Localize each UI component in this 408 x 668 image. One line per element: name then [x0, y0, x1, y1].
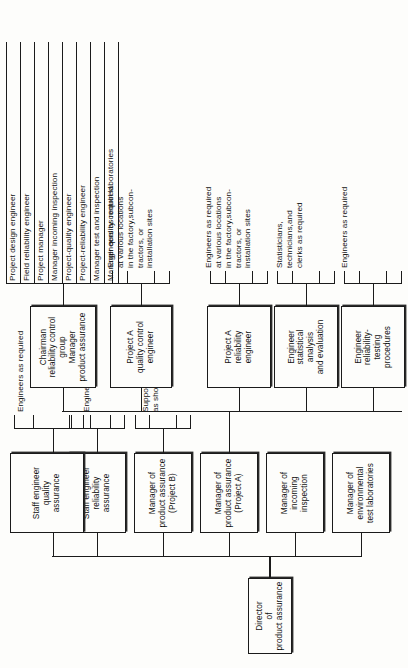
box-engineer-reliability-testing-procedures: Engineer reliability- testing procedures	[341, 306, 405, 388]
note-engineer-statistical: Statisticians, technicians,and clerks as…	[275, 138, 305, 268]
committee-member-3-label: Manager incoming inspection	[51, 173, 59, 281]
connector-pa-4-riser	[62, 411, 129, 412]
pa-0-brace-spine	[344, 283, 402, 284]
pa-1-brace-stub-2	[319, 271, 320, 284]
box-chairman-reliability-control-group-label: Chairman reliability control group Manag…	[39, 309, 87, 385]
brace-reliability-stub-3	[124, 415, 125, 429]
connector-level1-2	[229, 533, 230, 557]
pa-2-brace-spine	[210, 283, 268, 284]
pa-1-brace-stub-1	[292, 271, 293, 284]
committee-member-6: Manager test and inspection	[90, 42, 104, 284]
connector-level1-3	[163, 533, 164, 557]
connector-pa-2-brace	[239, 284, 240, 306]
box-product-assurance-project-a: Manager of product assurance (Project A)	[200, 453, 258, 533]
pa-3-brace-stub-1	[127, 271, 128, 284]
note-engineer-reliability-testing: Engineers as required	[340, 138, 350, 268]
connector-level1-bus	[52, 556, 362, 557]
box-staff-engineer-quality-assurance: Staff engineer quality assurance	[10, 453, 84, 533]
org-chart: Director of product assurance Manager of…	[0, 0, 408, 668]
box-product-assurance-project-b-label: Manager of product assurance (Project B)	[148, 458, 177, 527]
committee-member-2: Project manager	[34, 42, 48, 284]
committee-member-2-label: Project manager	[37, 220, 45, 281]
brace-quality-stub-1	[33, 415, 34, 429]
box-incoming-inspection: Manager of incoming inspection	[266, 453, 324, 533]
brace-reliability-stub-2	[110, 415, 111, 429]
connector-brace-project-b	[163, 429, 164, 453]
committee-member-3: Manager incoming inspection	[48, 42, 62, 284]
pa-2-brace-stub-1	[225, 271, 226, 284]
box-project-a-reliability-engineer: Project A reliability engineer	[207, 306, 271, 388]
box-product-assurance-project-a-label: Manager of product assurance (Project A)	[214, 458, 243, 527]
connector-pa-2	[239, 388, 240, 412]
committee-member-5: Project-reliability engineer	[76, 42, 90, 284]
pa-1-brace-stub-3	[334, 271, 335, 284]
brace-reliability-spine	[69, 428, 125, 429]
connector-committee	[63, 284, 64, 306]
pa-0-brace-stub-3	[401, 271, 402, 284]
connector-pa-1-brace	[306, 284, 307, 306]
committee-list-bottom-rule	[104, 42, 119, 284]
committee-member-0-label: Project design engineer	[9, 194, 17, 281]
pa-0-brace-stub-1	[359, 271, 360, 284]
pa-3-brace-stub-2	[154, 271, 155, 284]
box-incoming-inspection-label: Manager of incoming inspection	[280, 472, 309, 514]
connector-pa-3	[141, 388, 142, 412]
committee-member-4-label: Project-quality engineer	[65, 194, 73, 281]
pa-2-brace-stub-2	[252, 271, 253, 284]
committee-member-4: Project-quality engineer	[62, 42, 76, 284]
note-staff-quality: Engineers as required	[16, 292, 26, 412]
box-director: Director of product assurance	[248, 578, 292, 654]
connector-project-a-stem	[229, 411, 230, 453]
connector-level1-1	[295, 533, 296, 557]
brace-project-b-stub-2	[176, 415, 177, 429]
pa-1-brace-stub-0	[277, 271, 278, 284]
connector-pa-3-brace	[141, 284, 142, 306]
box-environmental-test-laboratories-label: Manager of environmental test laboratori…	[346, 463, 375, 523]
diagram-canvas: Director of product assurance Manager of…	[0, 0, 408, 668]
committee-member-6-label: Manager test and inspection	[93, 177, 101, 281]
connector-brace-reliability	[97, 429, 98, 453]
pa-2-brace-stub-3	[267, 271, 268, 284]
committee-member-1: Field reliability engineer	[20, 42, 34, 284]
box-engineer-reliability-testing-procedures-label: Engineer reliability- testing procedures	[354, 326, 393, 368]
connector-root-stem	[269, 556, 270, 578]
connector-level1-5	[53, 533, 54, 557]
connector-level1-0	[361, 533, 362, 557]
connector-project-a-bus	[128, 411, 402, 412]
brace-reliability-stub-1	[83, 415, 84, 429]
note-project-a-reliability: Engineers as required at various locatio…	[204, 118, 253, 268]
brace-project-b-stub-1	[149, 415, 150, 429]
box-chairman-reliability-control-group: Chairman reliability control group Manag…	[30, 306, 96, 388]
box-staff-engineer-reliability-assurance-label: Staff engineer reliability assurance	[82, 467, 111, 519]
box-environmental-test-laboratories: Manager of environmental test laboratori…	[332, 453, 390, 533]
pa-2-brace-stub-0	[210, 271, 211, 284]
brace-project-b-stub-3	[190, 415, 191, 429]
box-engineer-statistical-analysis-label: Engineer statistical analysis and evalua…	[287, 320, 326, 375]
box-staff-engineer-quality-assurance-label: Staff engineer quality assurance	[32, 467, 61, 519]
brace-project-b-spine	[135, 428, 191, 429]
committee-member-1-label: Field reliability engineer	[23, 193, 31, 281]
connector-pa-1	[306, 388, 307, 412]
box-engineer-statistical-analysis: Engineer statistical analysis and evalua…	[274, 306, 338, 388]
pa-0-brace-stub-2	[386, 271, 387, 284]
pa-3-brace-spine	[112, 283, 170, 284]
pa-0-brace-stub-0	[344, 271, 345, 284]
box-product-assurance-project-b: Manager of product assurance (Project B)	[134, 453, 192, 533]
connector-pa-4-stem	[63, 388, 64, 412]
brace-reliability-stub-0	[69, 415, 70, 429]
pa-3-brace-stub-3	[169, 271, 170, 284]
brace-quality-stub-0	[14, 415, 15, 429]
connector-pa-0-brace	[373, 284, 374, 306]
connector-level1-4	[97, 533, 98, 557]
box-director-label: Director of product assurance	[255, 581, 284, 650]
box-project-a-quality-control-engineer: Project A quality control engineer	[110, 306, 172, 388]
connector-brace-quality	[53, 429, 54, 453]
committee-member-5-label: Project-reliability engineer	[79, 185, 87, 281]
committee-member-0: Project design engineer	[6, 42, 20, 284]
pa-1-brace-spine	[277, 283, 335, 284]
box-project-a-reliability-engineer-label: Project A reliability engineer	[224, 330, 253, 364]
box-project-a-quality-control-engineer-label: Project A quality control engineer	[126, 321, 155, 373]
brace-project-b-stub-0	[135, 415, 136, 429]
connector-pa-0	[373, 388, 374, 412]
